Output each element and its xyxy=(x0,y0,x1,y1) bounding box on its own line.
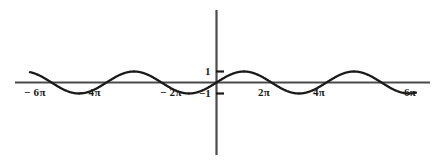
x-tick-label-minus-2pi: − 2π xyxy=(160,86,182,98)
x-tick-label-minus-4pi: − 4π xyxy=(79,86,101,98)
x-tick-label-4pi: 4π xyxy=(313,86,325,98)
x-tick-label-6pi: 6π xyxy=(404,86,416,98)
y-tick-label-one: 1 xyxy=(205,65,211,77)
x-tick-label-2pi: 2π xyxy=(258,86,270,98)
plot-canvas xyxy=(0,0,442,163)
y-tick-label-negative-one: −1 xyxy=(199,87,211,99)
x-tick-label-minus-6pi: − 6π xyxy=(24,86,46,98)
sine-graph-figure: − 6π − 4π − 2π 2π 4π 6π 1 −1 xyxy=(0,0,442,163)
